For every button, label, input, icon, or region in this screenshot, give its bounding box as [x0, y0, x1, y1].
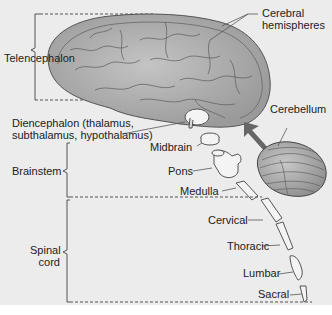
region-telencephalon: Telencephalon: [4, 52, 75, 65]
thoracic-segment: [276, 222, 293, 250]
midbrain-illustration: [197, 133, 219, 146]
nervous-system-diagram: Cerebral hemispheres Telencephalon Cereb…: [0, 0, 332, 305]
label-thoracic: Thoracic: [227, 240, 269, 253]
region-spinal-cord-line2: cord: [30, 256, 60, 269]
label-midbrain: Midbrain: [150, 141, 192, 154]
cervical-segment: [261, 198, 282, 222]
label-cervical: Cervical: [208, 214, 248, 227]
lumbar-segment: [290, 256, 302, 280]
cerebellum-illustration: [257, 128, 326, 196]
label-cerebral-line2: hemispheres: [262, 19, 325, 32]
label-cerebellum: Cerebellum: [270, 103, 326, 116]
region-brainstem: Brainstem: [12, 165, 62, 178]
label-sacral: Sacral: [258, 288, 289, 301]
label-pons: Pons: [168, 165, 193, 178]
cerebrum-illustration: [48, 14, 270, 127]
label-lumbar: Lumbar: [243, 267, 280, 280]
pons-illustration: [193, 150, 241, 178]
label-medulla: Medulla: [180, 185, 219, 198]
label-diencephalon-line2: subthalamus, hypothalamus): [12, 129, 153, 142]
